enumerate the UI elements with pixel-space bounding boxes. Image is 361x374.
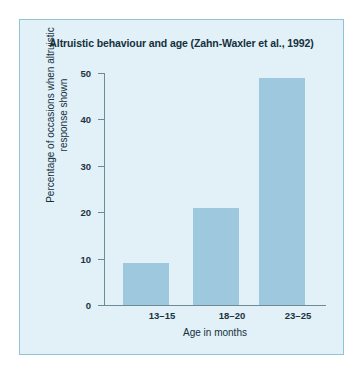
x-tick-label-2: 23–25 xyxy=(268,310,328,321)
y-tick-mark-0 xyxy=(98,305,104,306)
x-tick-label-1: 18–20 xyxy=(202,310,262,321)
x-axis-title: Age in months xyxy=(104,327,326,338)
chart-panel: Altruistic behaviour and age (Zahn-Waxle… xyxy=(19,19,344,355)
x-axis-line xyxy=(104,305,326,306)
bar-18-20 xyxy=(193,208,239,305)
y-tick-label-0: 0 xyxy=(51,300,91,311)
y-tick-label-10: 10 xyxy=(51,254,91,265)
y-axis-title-line1: Percentage of occasions when altruistic xyxy=(45,27,56,203)
plot-area xyxy=(104,73,324,305)
x-tick-label-0: 13–15 xyxy=(132,310,192,321)
y-axis-title-line2: response shown xyxy=(58,79,69,152)
y-axis-title: Percentage of occasions when altruistic … xyxy=(44,10,78,220)
bar-23-25 xyxy=(259,78,305,305)
bar-13-15 xyxy=(123,263,169,305)
